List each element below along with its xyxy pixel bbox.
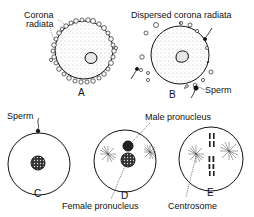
panel-label-e: E (207, 188, 214, 198)
label-radiata: radiata (26, 20, 54, 29)
label-centrosome: Centrosome (168, 202, 217, 211)
nucleus (31, 156, 45, 170)
panel-c-zygote (8, 118, 70, 195)
panel-d-pronuclei (94, 123, 156, 199)
nucleus (176, 51, 188, 62)
label-male-pronucleus: Male pronucleus (145, 113, 211, 122)
label-sperm-b: Sperm (205, 86, 232, 95)
panel-label-d: D (121, 191, 128, 201)
label-female-pronucleus: Female pronucleus (62, 202, 139, 211)
female-pronucleus (121, 153, 135, 167)
label-dispersed-corona-radiata: Dispersed corona radiata (131, 11, 232, 20)
panel-a-oocyte (49, 18, 117, 85)
sperm-icon (36, 118, 40, 133)
fertilization-diagram (0, 0, 254, 217)
panel-label-a: A (78, 88, 85, 98)
label-sperm-c: Sperm (7, 112, 34, 121)
nucleus (85, 53, 97, 64)
panel-label-c: C (34, 189, 41, 199)
panel-b-oocyte (131, 21, 213, 98)
panel-label-b: B (169, 90, 176, 100)
